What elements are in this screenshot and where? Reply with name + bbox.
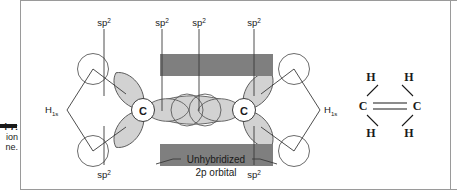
sp2-label-top-left-outer: sp2 [97, 17, 111, 29]
h1s-label-left: H1s [45, 104, 58, 117]
lewis-bonds [367, 85, 413, 126]
sp2-label-top-right-outer: sp2 [247, 17, 261, 29]
lewis-carbon-left: C [359, 99, 368, 113]
sp2-label-top-center-left: sp2 [155, 17, 169, 29]
lewis-carbon-right: C [413, 99, 422, 113]
figure-content-area: C C sp2 sp2 sp2 sp2 sp2 sp2 H1s H1s Unhy… [21, 1, 450, 189]
carbon-atom-left: C [132, 99, 155, 122]
frame-bottom-rule [20, 189, 457, 190]
margin-caption-line-1: i-7: [0, 122, 18, 132]
margin-caption: i-7: ion ne. [0, 122, 18, 152]
p-orbital-caption-line1: Unhybridized [187, 154, 245, 165]
margin-caption-line-2: ion [0, 132, 18, 142]
frame-right-rule [450, 0, 451, 190]
carbon-atom-right-label: C [240, 105, 248, 117]
lewis-hydrogen-bottom-left: H [366, 126, 376, 140]
p-orbital-caption-line2: 2p orbital [195, 167, 236, 178]
carbon-atom-right: C [233, 99, 256, 122]
margin-caption-line-3: ne. [0, 142, 18, 152]
figure-page: i-7: ion ne. [0, 0, 457, 190]
ethylene-orbital-figure: C C sp2 sp2 sp2 sp2 sp2 sp2 H1s H1s Unhy… [21, 1, 450, 189]
sp2-label-bottom-right-outer: sp2 [247, 169, 261, 181]
p-orbital-bar-top [160, 54, 273, 76]
lewis-hydrogen-bottom-right: H [404, 126, 414, 140]
h1s-label-right: H1s [324, 104, 337, 117]
lewis-hydrogen-top-right: H [404, 70, 414, 84]
lewis-hydrogen-top-left: H [366, 70, 376, 84]
carbon-atom-left-label: C [139, 105, 147, 117]
sp2-label-bottom-left-outer: sp2 [97, 169, 111, 181]
lewis-structure-ethylene: C C H H H H [359, 70, 422, 140]
sp2-label-top-center-right: sp2 [192, 17, 206, 29]
